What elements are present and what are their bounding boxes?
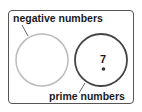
set-circle-negative-numbers xyxy=(16,34,68,86)
element-point-7 xyxy=(102,67,106,71)
element-label-7: 7 xyxy=(100,54,106,65)
set-label-prime-numbers: prime numbers xyxy=(49,91,125,102)
set-label-negative-numbers: negative numbers xyxy=(13,13,103,24)
leader-line-negative-numbers xyxy=(22,25,28,36)
